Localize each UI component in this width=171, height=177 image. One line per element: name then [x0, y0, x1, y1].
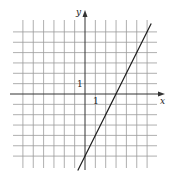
- x-tick-label: 1: [93, 96, 99, 106]
- y-tick-label: 1: [77, 79, 83, 89]
- coordinate-plot: x y 1 1: [0, 0, 171, 177]
- line-series: [78, 24, 151, 171]
- y-axis-arrow-icon: [83, 10, 88, 17]
- x-axis-label: x: [160, 96, 165, 106]
- y-axis-label: y: [75, 7, 82, 17]
